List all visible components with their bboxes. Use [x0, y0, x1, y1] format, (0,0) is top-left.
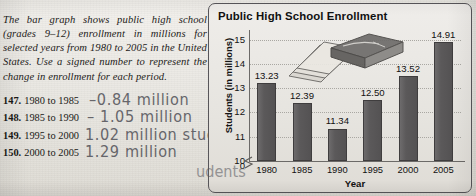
- x-tick-label: 1985: [285, 164, 319, 175]
- scanned-textbook-page: The bar graph shows public high school (…: [0, 0, 476, 196]
- bar-value-label: 13.23: [250, 70, 284, 81]
- handwriting-overflow-students: udents: [196, 162, 246, 180]
- x-tick-label: 1980: [250, 164, 284, 175]
- exercise-prompt: 1995 to 2000: [24, 130, 79, 141]
- y-tick-label: 14: [219, 58, 245, 69]
- exercise-number: 148.: [3, 112, 21, 123]
- bar-value-label: 13.52: [391, 63, 425, 74]
- exercise-number: 150.: [3, 147, 21, 158]
- handwritten-answer-150: 1.29 million: [85, 142, 177, 160]
- x-tick-label: 1990: [320, 164, 354, 175]
- x-axis-label: Year: [249, 178, 461, 189]
- bar: [328, 129, 347, 162]
- bar: [293, 103, 312, 161]
- exercise-list: 147. 1980 to 1985 –0.84 million 148. 198…: [3, 95, 207, 165]
- bar: [363, 100, 382, 161]
- x-tick-label: 2000: [391, 164, 425, 175]
- bar-value-label: 14.91: [426, 29, 460, 40]
- exercise-number: 147.: [3, 95, 21, 106]
- exercise-number: 149.: [3, 130, 21, 141]
- left-column: The bar graph shows public high school (…: [3, 2, 207, 165]
- exercise-prompt: 2000 to 2005: [24, 147, 79, 158]
- y-tick-label: 11: [219, 131, 245, 142]
- chart-title: Public High School Enrollment: [218, 10, 387, 22]
- bar: [257, 83, 276, 161]
- x-tick-label: 2005: [426, 164, 460, 175]
- bar-value-label: 12.50: [356, 87, 390, 98]
- bar-chart-panel: Public High School Enrollment Students (…: [208, 3, 472, 193]
- plot-area: Students (in millions) 1514131211100: [209, 28, 472, 193]
- intro-paragraph: The bar graph shows public high school (…: [3, 13, 207, 84]
- y-tick-label: 13: [219, 82, 245, 93]
- x-tick-label: 1995: [356, 164, 390, 175]
- handwritten-answer-148: – 1.05 million: [87, 107, 192, 125]
- y-tick-label: 12: [219, 106, 245, 117]
- bar: [399, 76, 418, 161]
- y-tick-label: 15: [219, 34, 245, 45]
- bar-value-label: 12.39: [285, 90, 319, 101]
- bar: [434, 42, 453, 161]
- exercise-prompt: 1985 to 1990: [24, 112, 79, 123]
- y-axis-ticks: 1514131211100: [215, 28, 245, 168]
- bar-value-label: 11.34: [320, 115, 354, 126]
- x-axis-line: [249, 161, 465, 162]
- handwritten-answer-147: –0.84 million: [89, 89, 189, 107]
- exercise-row-150: 150. 2000 to 2005 1.29 million: [3, 147, 207, 165]
- exercise-prompt: 1980 to 1985: [24, 95, 79, 106]
